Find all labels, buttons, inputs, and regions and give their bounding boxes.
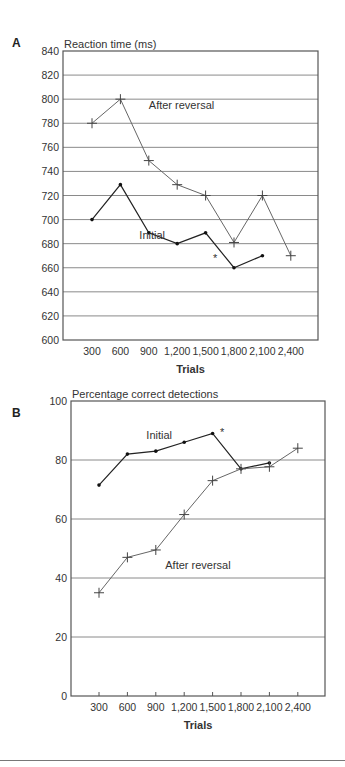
x-tick-label: 2,100 <box>256 701 282 713</box>
x-axis-label: Trials <box>184 719 213 731</box>
x-tick-label: 2,400 <box>285 701 311 713</box>
x-tick-label: 1,500 <box>199 701 225 713</box>
y-tick-label: 0 <box>61 690 67 702</box>
x-tick-label: 600 <box>119 701 137 713</box>
chart-b-percentage-correct: 0204060801003006009001,2001,5001,8002,10… <box>0 0 345 767</box>
y-tick-label: 40 <box>55 572 67 584</box>
plot-frame <box>71 401 325 696</box>
x-tick-label: 300 <box>90 701 108 713</box>
data-point-plus <box>293 443 303 453</box>
y-tick-label: 60 <box>55 513 67 525</box>
data-point-dot <box>211 432 215 436</box>
x-tick-label: 900 <box>147 701 165 713</box>
y-tick-label: 80 <box>55 454 67 466</box>
x-tick-label: 1,800 <box>228 701 254 713</box>
x-tick-label: 1,200 <box>171 701 197 713</box>
bottom-divider <box>0 760 345 761</box>
data-point-dot <box>97 483 101 487</box>
series-annotation: Initial <box>146 429 172 441</box>
data-point-dot <box>154 449 158 453</box>
data-point-dot <box>182 441 186 445</box>
y-tick-label: 100 <box>49 395 67 407</box>
data-point-plus <box>151 545 161 555</box>
data-point-plus <box>94 588 104 598</box>
y-tick-label: 20 <box>55 631 67 643</box>
y-axis-label: Percentage correct detections <box>72 388 219 400</box>
significance-star: * <box>220 426 225 438</box>
data-point-dot <box>126 452 130 456</box>
data-point-plus <box>122 552 132 562</box>
series-annotation: After reversal <box>165 559 230 571</box>
